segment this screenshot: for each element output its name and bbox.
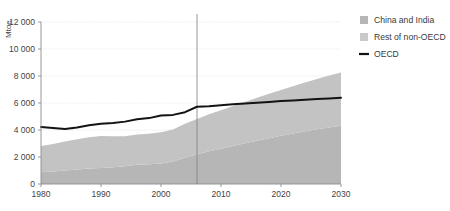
y-tick-label: 4 000 xyxy=(14,125,36,135)
x-tick-label: 2000 xyxy=(152,189,171,199)
legend-label-2: OECD xyxy=(374,49,399,59)
legend-label-1: Rest of non-OECD xyxy=(374,32,446,42)
x-axis-tick-labels: 198019902000201020202030 xyxy=(32,189,351,199)
y-axis-title: Mtoe xyxy=(4,20,13,38)
x-tick-label: 1980 xyxy=(32,189,51,199)
y-tick-label: 8 000 xyxy=(14,71,36,81)
legend-swatch-area-0 xyxy=(360,16,368,24)
legend-label-0: China and India xyxy=(374,15,434,25)
y-axis-tick-labels: 12 00010 0008 0006 0004 0002 0000 xyxy=(9,17,35,189)
x-tick-label: 2030 xyxy=(332,189,351,199)
y-tick-label: 6 000 xyxy=(14,98,36,108)
y-tick-label: 2 000 xyxy=(14,152,36,162)
chart-canvas: 12 00010 0008 0006 0004 0002 0000 198019… xyxy=(0,0,450,211)
legend-swatch-area-1 xyxy=(360,33,368,41)
x-tick-label: 1990 xyxy=(92,189,111,199)
legend: China and IndiaRest of non-OECDOECD xyxy=(359,15,446,59)
y-tick-label: 0 xyxy=(30,179,35,189)
y-tick-label: 10 000 xyxy=(9,44,35,54)
x-tick-label: 2010 xyxy=(212,189,231,199)
energy-demand-area-chart: 12 00010 0008 0006 0004 0002 0000 198019… xyxy=(0,0,450,211)
x-tick-label: 2020 xyxy=(272,189,291,199)
y-axis-title-group: Mtoe xyxy=(4,20,13,38)
area-series-group xyxy=(41,72,341,184)
